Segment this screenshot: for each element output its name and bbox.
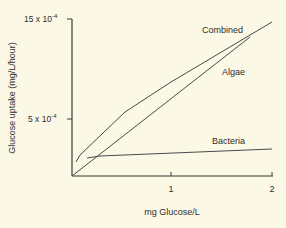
y-tick-label-15: 15 x 10-4 <box>24 13 58 24</box>
x-axis-title: mg Glucose/L <box>144 207 200 217</box>
y-tick-label-5: 5 x 10-4 <box>28 113 57 124</box>
series-label-algae: Algae <box>222 67 245 77</box>
x-tick-label-1: 1 <box>168 184 173 194</box>
series-algae-line <box>72 37 250 176</box>
series-bacteria-line <box>87 149 272 158</box>
series-label-bacteria: Bacteria <box>212 136 245 146</box>
y-axis-title: Glucose uptake (mg/L/hour) <box>7 42 17 154</box>
chart: 15 x 10-4 5 x 10-4 1 2 mg Glucose/L Gluc… <box>0 0 286 228</box>
series-label-combined: Combined <box>202 25 243 35</box>
x-tick-label-2: 2 <box>269 184 274 194</box>
